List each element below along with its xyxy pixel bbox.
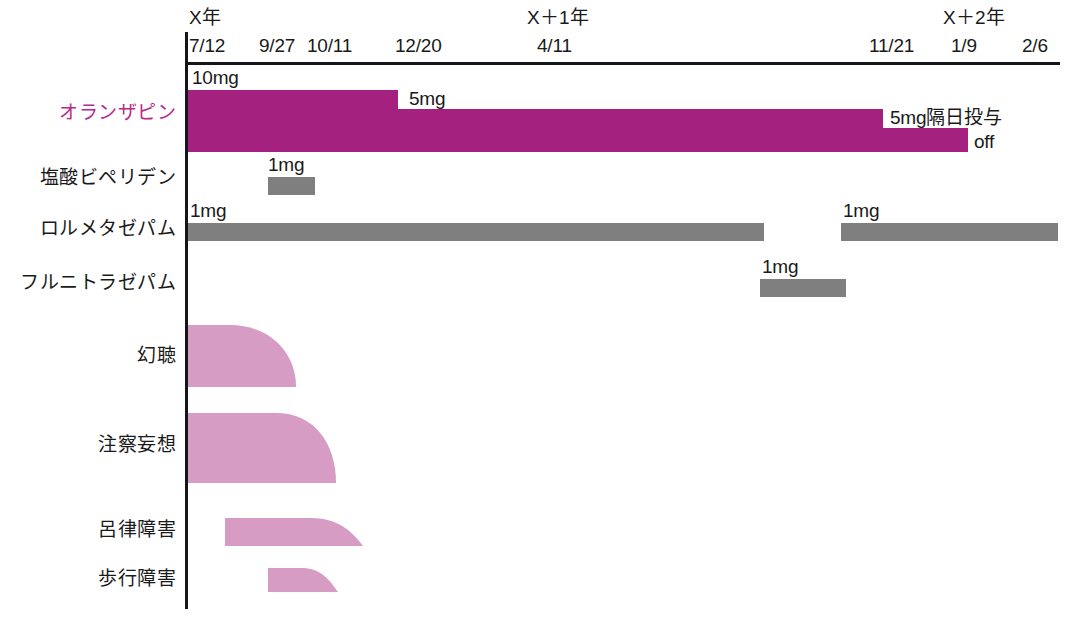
wedge-dysarthria — [225, 518, 367, 549]
bar-olanzapine-5mg — [398, 109, 883, 152]
horizontal-axis-line — [185, 62, 1060, 65]
row-label-biperiden-hydrochloride: 塩酸ビペリデン — [0, 168, 176, 187]
row-label-auditory-hallucination: 幻聴 — [0, 346, 176, 365]
wedge-delusion-of-observation — [188, 413, 340, 487]
date-tick-10-11: 10/11 — [307, 36, 352, 55]
caption-olanzapine-10mg: 10mg — [192, 68, 239, 87]
bar-lormetazepam-segment-1 — [188, 223, 764, 241]
wedge-gait-disturbance — [268, 568, 342, 595]
caption-olanzapine-5mg: 5mg — [409, 89, 445, 108]
period-label-year-x-plus-2: X＋2年 — [943, 8, 1005, 27]
period-label-year-x-plus-1: X＋1年 — [527, 8, 589, 27]
period-label-year-x: X年 — [189, 8, 221, 27]
row-label-olanzapine: オランザピン — [0, 103, 176, 122]
date-tick-1-9: 1/9 — [951, 36, 977, 55]
caption-lormetazepam-1mg-first: 1mg — [190, 201, 226, 220]
caption-olanzapine-alternate-day: 5mg隔日投与 — [890, 108, 1002, 127]
row-label-dysarthria: 呂律障害 — [0, 520, 176, 539]
row-label-gait-disturbance: 歩行障害 — [0, 569, 176, 588]
caption-lormetazepam-1mg-second: 1mg — [843, 201, 879, 220]
date-tick-7-12: 7/12 — [189, 36, 225, 55]
bar-flunitrazepam-1mg — [760, 279, 846, 297]
caption-olanzapine-off: off — [974, 132, 994, 151]
caption-flunitrazepam-1mg: 1mg — [762, 257, 798, 276]
row-label-flunitrazepam: フルニトラゼパム — [0, 273, 176, 292]
date-tick-9-27: 9/27 — [259, 36, 295, 55]
wedge-auditory-hallucination — [188, 325, 300, 389]
treatment-course-timeline-chart: X年 X＋1年 X＋2年 7/12 9/27 10/11 12/20 4/11 … — [0, 0, 1080, 617]
date-tick-11-21: 11/21 — [869, 36, 914, 55]
date-tick-2-6: 2/6 — [1022, 36, 1048, 55]
bar-biperiden-1mg — [268, 177, 315, 195]
bar-olanzapine-10mg — [188, 90, 398, 152]
date-tick-4-11: 4/11 — [537, 36, 572, 55]
caption-biperiden-1mg: 1mg — [268, 155, 304, 174]
date-tick-12-20: 12/20 — [395, 36, 442, 55]
bar-olanzapine-5mg-every-other-day — [883, 128, 968, 152]
row-label-lormetazepam: ロルメタゼパム — [0, 219, 176, 238]
bar-lormetazepam-segment-2 — [841, 223, 1058, 241]
row-label-delusion-of-observation: 注察妄想 — [0, 435, 176, 454]
